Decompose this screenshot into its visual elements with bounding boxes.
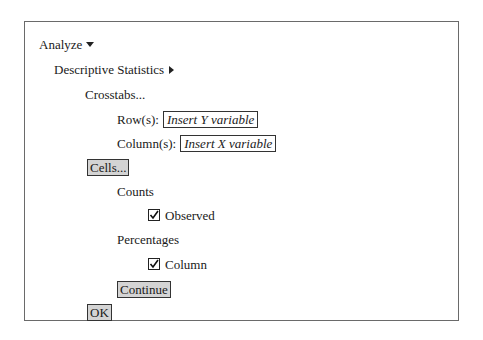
column-variable-row: Column(s):Insert X variable [117, 135, 276, 152]
instructions-frame: Analyze Descriptive Statistics Crosstabs… [24, 21, 459, 321]
percentages-heading: Percentages [117, 232, 179, 248]
caret-down-icon [86, 42, 94, 47]
menu-crosstabs[interactable]: Crosstabs... [85, 87, 145, 103]
observed-checkbox[interactable] [148, 209, 160, 221]
observed-option[interactable]: Observed [148, 208, 215, 224]
menu-crosstabs-label: Crosstabs... [85, 87, 145, 102]
counts-heading: Counts [117, 184, 154, 200]
checkmark-icon [149, 259, 159, 269]
row-label: Row(s): [117, 112, 159, 127]
menu-descriptive-label: Descriptive Statistics [54, 62, 164, 77]
menu-analyze[interactable]: Analyze [39, 37, 94, 53]
observed-label: Observed [165, 208, 215, 223]
caret-right-icon [169, 66, 174, 74]
row-variable-field[interactable]: Insert Y variable [163, 111, 258, 128]
ok-button[interactable]: OK [87, 304, 112, 321]
column-variable-field[interactable]: Insert X variable [180, 135, 276, 152]
menu-analyze-label: Analyze [39, 37, 82, 52]
column-label: Column(s): [117, 136, 176, 151]
menu-descriptive-statistics[interactable]: Descriptive Statistics [54, 62, 174, 78]
checkmark-icon [149, 210, 159, 220]
continue-button[interactable]: Continue [117, 281, 171, 298]
column-percent-option[interactable]: Column [148, 257, 207, 273]
column-percent-label: Column [165, 257, 207, 272]
column-percent-checkbox[interactable] [148, 258, 160, 270]
row-variable-row: Row(s):Insert Y variable [117, 111, 258, 128]
cells-button[interactable]: Cells... [87, 159, 129, 176]
